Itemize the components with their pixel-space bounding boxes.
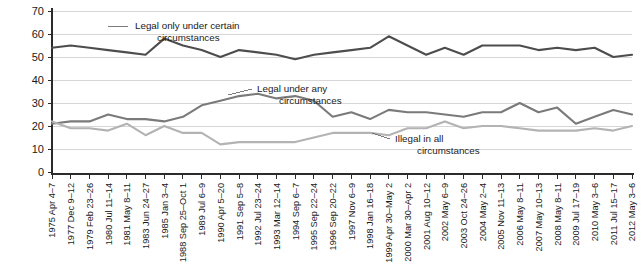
x-tick-label: 2004 May 2–4 [478,183,488,241]
chart-page: 010203040506070 Legal only under certain… [0,0,643,270]
x-tick-label: 1983 Jun 24–27 [141,183,151,249]
x-tick-label: 1980 Jul 11–14 [104,183,114,245]
annotation-1: Legal under anycircumstances [257,83,342,106]
x-axis-tick-marks [52,174,632,179]
x-tick-label: 2001 Aug 10–12 [422,183,432,250]
series-annotations: Legal only under certaincircumstancesLeg… [135,20,480,156]
y-tick-label-70: 70 [32,5,44,17]
x-tick-label: 1975 Apr 4–7 [47,183,57,238]
annotation-2: Illegal in allcircumstances [395,133,480,156]
x-tick-label: 1998 Jan 16–18 [365,183,375,249]
x-tick-label: 1991 Sep 5–8 [235,183,245,240]
y-tick-label-60: 60 [32,28,44,40]
x-tick-label: 1979 Feb 23–26 [85,183,95,250]
x-tick-label: 1977 Dec 9–12 [66,183,76,245]
x-tick-label: 1989 Jul 6–9 [197,183,207,236]
series-line-1 [52,94,632,124]
annotation-leader-lines [108,26,390,139]
x-tick-label: 1994 Sep 6–7 [291,183,301,240]
y-tick-label-0: 0 [38,166,44,178]
series-line-0 [52,36,632,59]
x-tick-label: 2008 May 8–11 [553,183,563,246]
x-tick-label: 1990 Apr 5–20 [216,183,226,243]
x-tick-label: 1988 Sep 25–Oct 1 [178,183,188,262]
x-tick-label: 1995 Sep 22–24 [309,183,319,250]
y-tick-label-30: 30 [32,97,44,109]
x-tick-label: 1997 Nov 6–9 [347,183,357,240]
x-tick-label: 2000 Mar 30–Apr 2 [403,183,413,262]
x-tick-label: 1985 Jan 3–4 [160,183,170,239]
y-tick-label-50: 50 [32,51,44,63]
y-tick-label-40: 40 [32,74,44,86]
y-tick-label-20: 20 [32,120,44,132]
gridlines [52,11,632,149]
x-tick-label: 2009 Jul 17–19 [571,183,581,246]
x-tick-label: 2006 May 8–11 [515,183,525,246]
x-tick-label: 2007 May 10–13 [534,183,544,251]
x-tick-label: 2002 May 6–9 [440,183,450,241]
annotation-0: Legal only under certaincircumstances [135,20,240,43]
x-tick-label: 2005 Nov 11–13 [496,183,506,250]
y-axis-tick-labels: 010203040506070 [32,5,52,178]
x-tick-label: 2011 Jul 15–17 [609,183,619,245]
line-chart: 010203040506070 Legal only under certain… [0,0,643,270]
x-tick-label: 2010 May 3–6 [590,183,600,241]
x-tick-label: 2012 May 3–6 [627,183,637,241]
x-tick-label: 1992 Jul 23–24 [253,183,263,246]
x-tick-label: 1996 Sep 20–22 [328,183,338,250]
x-tick-label: 2003 Oct 24–26 [459,183,469,248]
data-series-lines [52,36,632,144]
x-tick-label: 1999 Apr 30–May 2 [384,183,394,263]
x-tick-label: 1981 May 8–11 [122,183,132,246]
y-tick-label-10: 10 [32,143,44,155]
series-line-2 [52,121,632,144]
x-axis-tick-labels: 1975 Apr 4–71977 Dec 9–121979 Feb 23–261… [47,183,637,263]
x-tick-label: 1993 Mar 12–14 [272,183,282,250]
